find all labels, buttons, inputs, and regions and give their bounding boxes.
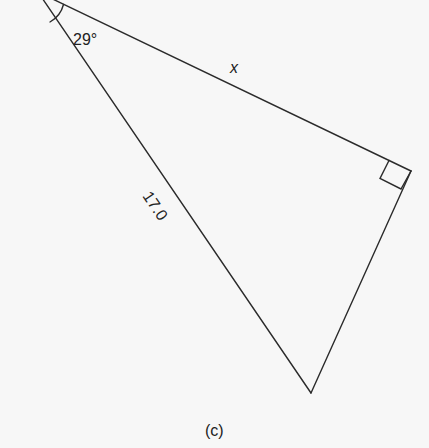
side-x [38,0,411,171]
right-angle-marker [380,161,411,190]
unknown-side-label: x [229,59,239,76]
side-opposite [311,171,411,393]
figure-caption: (c) [205,422,224,439]
side-hypotenuse [38,0,311,393]
hypotenuse-label: 17.0 [140,188,172,223]
angle-label: 29° [73,31,97,48]
triangle-diagram: 29° x 17.0 (c) [0,0,429,448]
